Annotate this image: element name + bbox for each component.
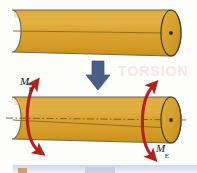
label-moment-left: ME xyxy=(20,72,33,91)
arrow-down-icon xyxy=(86,61,110,90)
label-moment-right: ME xyxy=(156,139,169,158)
shaft-highlight-top xyxy=(14,12,170,18)
page-edge-strip xyxy=(13,165,197,173)
shaft-center-point-bottom xyxy=(169,118,173,122)
moment-symbol-right: M xyxy=(156,142,165,154)
shaft-center-point-top xyxy=(169,31,173,35)
torsion-figure: TORSION xyxy=(0,0,197,173)
downward-arrow xyxy=(86,61,110,90)
moment-subscript-right: E xyxy=(165,152,169,160)
strip-smudge xyxy=(85,167,115,173)
moment-subscript-left: E xyxy=(29,85,33,93)
undeformed-shaft xyxy=(12,10,181,56)
strip-chip xyxy=(18,168,27,173)
moment-symbol-left: M xyxy=(20,75,29,87)
